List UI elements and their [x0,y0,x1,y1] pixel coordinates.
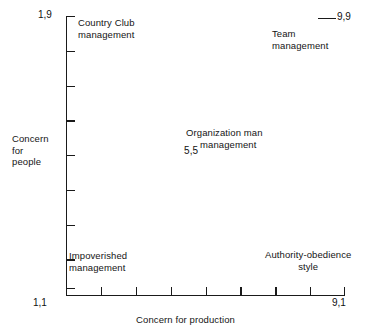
style-label-impoverished: Impoverishedmanagement [69,250,127,273]
style-coords-5-5: 5,5 [184,145,198,156]
style-label-organization-man-line2: management [200,139,256,151]
corner-label-1-1: 1,1 [33,297,47,308]
x-axis-tick [136,287,137,295]
style-label-team-line1: Team [272,28,296,39]
y-axis-tick [67,51,75,52]
corner-label-9-1: 9,1 [332,297,346,308]
corner-label-9-9: 9,9 [337,11,351,22]
y-axis-title-line1: Concern [12,133,49,144]
y-axis-title: Concernforpeople [12,133,49,168]
y-axis-tick [67,155,75,156]
style-label-team: Teammanagement [272,28,328,51]
y-axis-title-line2: for [12,145,23,156]
y-axis-title-line3: people [12,156,41,167]
x-axis-tick [344,287,345,295]
style-label-country-club-line1: Country Club [78,17,135,28]
x-axis-tick [66,287,67,295]
marker-dash-9-9-icon [318,18,336,20]
style-label-team-line2: management [272,40,328,51]
x-axis-tick [171,287,172,295]
x-axis-tick [206,287,207,295]
managerial-grid-figure: 1,9 9,9 1,1 9,1 Country Clubmanagement T… [0,0,371,335]
style-label-authority-obedience-line2: style [298,261,318,272]
style-label-impoverished-line2: management [69,262,125,273]
y-axis-tick [67,288,75,289]
y-axis-tick [67,190,75,191]
x-axis-tick [310,287,311,295]
corner-label-1-9: 1,9 [38,9,52,20]
style-label-organization-man-line1: Organization man [186,127,263,138]
x-axis-tick [101,287,102,295]
x-axis-tick [275,287,276,295]
style-label-authority-obedience: Authority-obediencestyle [265,249,351,272]
y-axis-tick [67,225,75,226]
x-axis-title: Concern for production [0,314,371,326]
style-label-country-club: Country Clubmanagement [78,17,135,40]
x-axis-tick [240,287,241,295]
y-axis-tick [67,120,75,121]
style-label-authority-obedience-line1: Authority-obedience [265,249,351,260]
y-axis-tick [67,86,75,87]
y-axis-tick [67,16,75,17]
style-label-country-club-line2: management [78,29,134,40]
style-label-impoverished-line1: Impoverished [69,250,127,261]
